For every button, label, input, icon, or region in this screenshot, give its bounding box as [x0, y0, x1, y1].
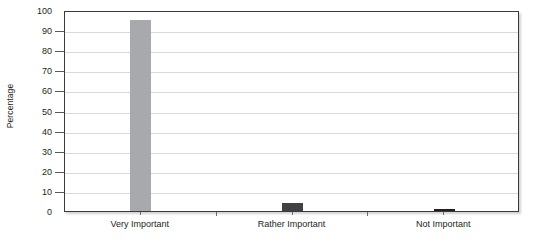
- bar: [434, 209, 455, 211]
- x-axis-tick-label: Rather Important: [258, 219, 326, 229]
- bar: [130, 20, 151, 211]
- y-axis-tick-label: 100: [22, 7, 52, 16]
- bar: [282, 203, 303, 211]
- x-axis-tick-label: Very Important: [111, 219, 170, 229]
- y-axis-tick-label: 0: [22, 208, 52, 217]
- y-axis-tick-mark: [55, 31, 64, 32]
- x-axis-tick-mark: [292, 212, 293, 215]
- x-axis-tick-labels: Very ImportantRather ImportantNot Import…: [64, 219, 519, 239]
- y-axis-tick-label: 50: [22, 107, 52, 116]
- y-axis-tick-label: 80: [22, 47, 52, 56]
- y-axis-tick-labels: 0102030405060708090100: [22, 0, 52, 240]
- y-axis-title-text: Percentage: [5, 84, 15, 128]
- x-axis-tick-mark: [140, 212, 141, 215]
- y-axis-tick-label: 90: [22, 27, 52, 36]
- y-axis-tick-mark: [55, 192, 64, 193]
- y-axis-tick-mark: [55, 132, 64, 133]
- y-axis-tick-label: 40: [22, 127, 52, 136]
- y-axis-tick-label: 20: [22, 167, 52, 176]
- bar-chart: Percentage 0102030405060708090100 Very I…: [0, 0, 534, 240]
- y-axis-tick-label: 30: [22, 147, 52, 156]
- plot-area: [64, 11, 519, 212]
- x-axis-tick-mark: [443, 212, 444, 215]
- y-axis-tick-label: 70: [22, 67, 52, 76]
- y-axis-tick-label: 60: [22, 87, 52, 96]
- y-axis-tick-mark: [55, 71, 64, 72]
- y-axis-tick-label: 10: [22, 187, 52, 196]
- x-axis-tick-mark: [216, 212, 217, 216]
- x-axis-tick-label: Not Important: [416, 219, 471, 229]
- y-axis-tick-mark: [55, 112, 64, 113]
- y-axis-tick-mark: [55, 172, 64, 173]
- y-axis-tick-mark: [55, 91, 64, 92]
- x-axis-ticks: [64, 212, 519, 217]
- bars-group: [65, 12, 518, 211]
- y-axis-title: Percentage: [0, 0, 20, 212]
- y-axis-tick-mark: [55, 152, 64, 153]
- x-axis-tick-mark: [367, 212, 368, 216]
- y-axis-tick-mark: [55, 51, 64, 52]
